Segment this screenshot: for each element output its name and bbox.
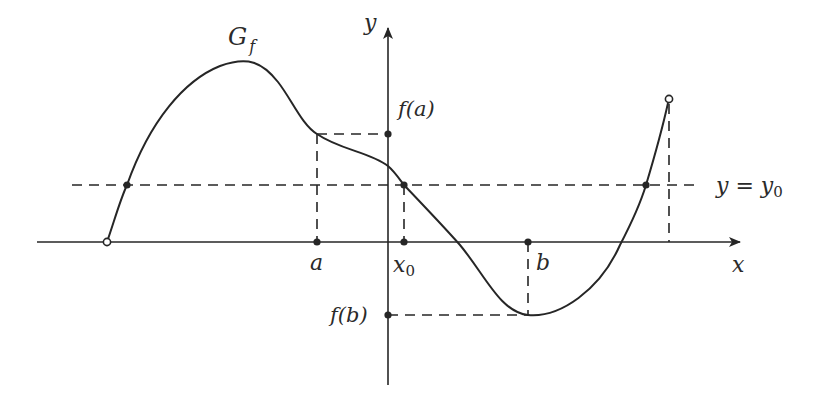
point-b-on-axis [524, 238, 531, 245]
function-graph-diagram: Gf y x f(a) f(b) a x0 b y = y0 [0, 0, 816, 402]
b-label: b [536, 250, 550, 275]
point-x0-on-curve [400, 181, 407, 188]
open-endpoint-right [665, 95, 672, 102]
point-left-y0-crossing [123, 181, 130, 188]
fa-label: f(a) [396, 97, 435, 121]
y-axis-label: y [363, 10, 377, 35]
point-x0-on-axis [400, 238, 407, 245]
open-endpoint-left [103, 238, 110, 245]
y0-line-label: y = y0 [715, 173, 783, 201]
point-fa-on-axis [384, 130, 391, 137]
x-axis-label: x [732, 252, 745, 277]
points [123, 130, 649, 318]
graph-label: Gf [228, 23, 258, 56]
a-label: a [310, 250, 323, 275]
fb-label: f(b) [328, 303, 368, 327]
x0-label: x0 [393, 252, 415, 280]
point-right-y0-crossing [642, 181, 649, 188]
point-a-on-axis [313, 238, 320, 245]
point-fb-on-axis [384, 311, 391, 318]
